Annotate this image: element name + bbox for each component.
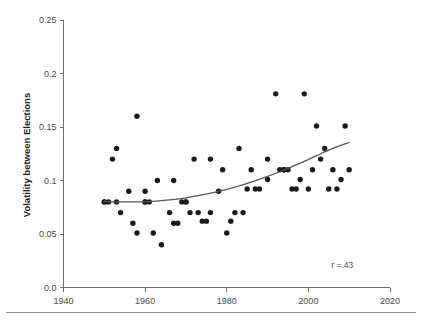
- data-point: [167, 210, 172, 215]
- data-point: [134, 230, 139, 235]
- data-point: [330, 167, 335, 172]
- data-point: [130, 221, 135, 226]
- data-point: [208, 156, 213, 161]
- data-point: [293, 186, 298, 191]
- data-point: [187, 210, 192, 215]
- data-point: [334, 186, 339, 191]
- data-point: [244, 186, 249, 191]
- annotations-group: r =.43: [331, 260, 353, 270]
- data-point: [318, 156, 323, 161]
- x-tick-label: 1980: [217, 296, 237, 306]
- data-point: [236, 146, 241, 151]
- x-tick-labels: 19401960198020002020: [53, 296, 400, 306]
- data-point: [208, 210, 213, 215]
- footer-divider: [6, 312, 416, 313]
- data-point: [228, 218, 233, 223]
- data-point: [191, 156, 196, 161]
- y-tick-label: 0.05: [39, 229, 57, 239]
- x-tick-label: 2000: [298, 296, 318, 306]
- data-point: [257, 186, 262, 191]
- x-tick-label: 2020: [380, 296, 400, 306]
- data-point: [220, 167, 225, 172]
- data-point: [118, 210, 123, 215]
- data-point: [159, 242, 164, 247]
- data-point: [151, 230, 156, 235]
- data-point: [265, 156, 270, 161]
- y-axis-group: 0.00.050.10.150.20.25: [39, 15, 64, 293]
- data-point: [183, 199, 188, 204]
- data-point: [298, 177, 303, 182]
- data-point: [134, 114, 139, 119]
- data-point: [310, 167, 315, 172]
- data-point: [338, 177, 343, 182]
- y-axis-title: Volatility between Elections: [21, 93, 32, 217]
- x-axis-group: 19401960198020002020: [53, 288, 400, 306]
- y-tick-label: 0.0: [44, 283, 57, 293]
- x-tick-label: 1940: [53, 296, 73, 306]
- data-point: [126, 189, 131, 194]
- y-tick-label: 0.1: [44, 176, 57, 186]
- correlation-annotation: r =.43: [331, 260, 353, 270]
- data-point: [232, 210, 237, 215]
- data-point: [346, 167, 351, 172]
- data-point: [110, 156, 115, 161]
- data-points-group: [102, 91, 352, 247]
- data-point: [326, 186, 331, 191]
- data-point: [322, 146, 327, 151]
- y-tick-label: 0.15: [39, 122, 57, 132]
- data-point: [195, 210, 200, 215]
- data-point: [155, 178, 160, 183]
- data-point: [302, 91, 307, 96]
- data-point: [342, 123, 347, 128]
- data-point: [240, 210, 245, 215]
- data-point: [314, 123, 319, 128]
- data-point: [142, 189, 147, 194]
- data-point: [273, 91, 278, 96]
- x-tick-label: 1960: [135, 296, 155, 306]
- data-point: [114, 146, 119, 151]
- y-tick-labels: 0.00.050.10.150.20.25: [39, 15, 57, 293]
- scatter-chart: 0.00.050.10.150.20.25 194019601980200020…: [0, 0, 423, 322]
- figure-container: 0.00.050.10.150.20.25 194019601980200020…: [0, 0, 423, 322]
- data-point: [249, 167, 254, 172]
- data-point: [175, 221, 180, 226]
- x-tick-marks: [64, 288, 391, 292]
- data-point: [204, 218, 209, 223]
- y-tick-marks: [60, 20, 64, 288]
- data-point: [224, 230, 229, 235]
- y-tick-label: 0.25: [39, 15, 57, 25]
- data-point: [171, 178, 176, 183]
- y-tick-label: 0.2: [44, 69, 57, 79]
- data-point: [306, 186, 311, 191]
